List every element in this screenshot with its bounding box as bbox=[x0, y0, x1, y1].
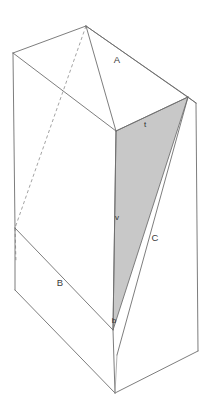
label-edge-b: B bbox=[57, 277, 63, 288]
label-point-b: b bbox=[112, 316, 117, 325]
label-edge-c: C bbox=[152, 232, 159, 243]
label-point-v: v bbox=[115, 213, 119, 222]
label-edge-a: A bbox=[114, 54, 121, 65]
prism-figure: A B C t v b bbox=[0, 0, 209, 411]
diagram-canvas: A B C t v b bbox=[0, 0, 209, 411]
edge-top-right-cap bbox=[188, 97, 196, 103]
